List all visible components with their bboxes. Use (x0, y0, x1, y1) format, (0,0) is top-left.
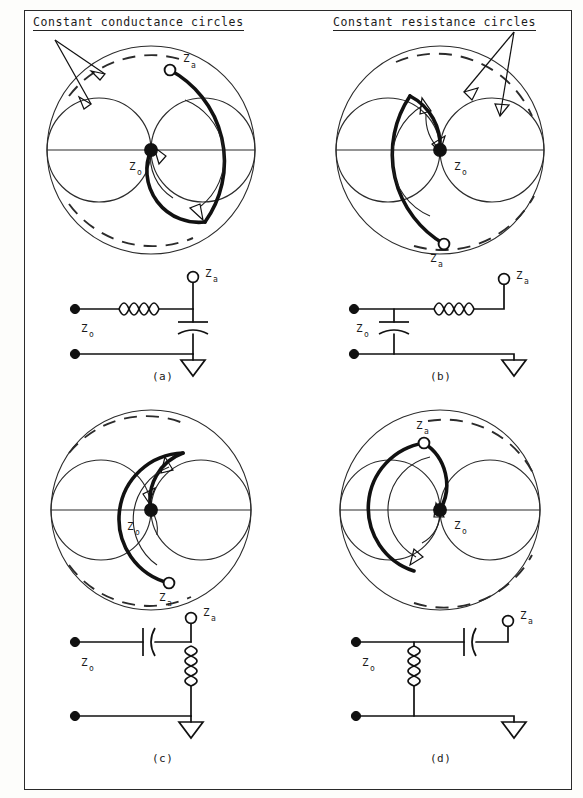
panel-d-output-terminal (503, 616, 514, 627)
panel-b-za-circuit-label-sub: a (524, 277, 529, 286)
panel-c-za-circuit-label: Z (203, 606, 210, 619)
panel-d-za-marker (419, 438, 430, 449)
panel-c-zo-marker (145, 504, 157, 516)
panel-d-zo-label-sub: o (462, 527, 467, 536)
panel-d-za-label-sub: a (424, 427, 429, 436)
panel-d-ground-symbol (502, 722, 526, 738)
panel-a-za-circuit-label-sub: a (213, 275, 218, 284)
panel-c-za-label-sub: a (167, 599, 172, 608)
panel-a-caption: (a) (152, 370, 173, 383)
panel-c-zo-circuit-label-sub: o (89, 664, 94, 673)
panel-a-shunt-capacitor (178, 322, 208, 334)
panel-c-circuit: Z a Z o (33, 612, 283, 742)
panel-a-smith-chart: Z a Z o (33, 30, 283, 270)
panel-b-smith-chart: Z a Z o (318, 30, 568, 270)
panel-c-zo-label-sub: o (135, 528, 140, 537)
panel-b-zo-circuit-label: Z (356, 322, 363, 335)
panel-b-zo-label-sub: o (462, 168, 467, 177)
panel-c-zo-circuit-label: Z (81, 656, 88, 669)
panel-d-za-label: Z (416, 419, 423, 432)
panel-c-output-terminal (186, 613, 197, 624)
panel-b-circuit: Z a Z o (318, 268, 568, 376)
panel-c-zo-label: Z (127, 520, 134, 533)
panel-b-series-inductor (434, 303, 474, 315)
panel-a-zo-circuit-label: Z (81, 322, 88, 335)
panel-d-zo-circuit-label: Z (362, 656, 369, 669)
panel-a-series-inductor (119, 303, 159, 315)
panel-c-za-marker (164, 578, 175, 589)
panel-b-za-marker (439, 239, 450, 250)
panel-a-zo-label: Z (129, 160, 136, 173)
panel-d-shunt-inductor (408, 646, 420, 686)
panel-a-zo-marker (145, 144, 157, 156)
panel-b-output-terminal (499, 274, 510, 285)
figure-page: Constant conductance circles Constant re… (0, 0, 583, 798)
panel-c-shunt-inductor (185, 646, 197, 686)
panel-c-smith-chart: Z a Z o (33, 405, 283, 620)
panel-d-zo-circuit-label-sub: o (370, 664, 375, 673)
panel-d-series-capacitor (464, 628, 476, 656)
panel-c-za-label: Z (159, 591, 166, 604)
panel-d-zo-label: Z (454, 519, 461, 532)
panel-a-za-circuit-label: Z (205, 267, 212, 280)
panel-c-ground-symbol (179, 722, 203, 738)
header-constant-conductance: Constant conductance circles (33, 16, 244, 31)
panel-a-zo-circuit-label-sub: o (89, 330, 94, 339)
panel-b-shunt-capacitor (379, 322, 409, 334)
panel-b-zo-circuit-label-sub: o (364, 330, 369, 339)
header-constant-resistance: Constant resistance circles (333, 16, 536, 31)
panel-a-za-marker (165, 65, 176, 76)
figure-frame-footer (24, 755, 572, 790)
panel-a-zo-label-sub: o (137, 168, 142, 177)
panel-b-ground-symbol (502, 360, 526, 376)
panel-a-circuit: Z a Z o (33, 268, 283, 376)
panel-b-zo-label: Z (454, 160, 461, 173)
panel-a-za-label: Z (183, 52, 190, 65)
panel-b-zo-marker (434, 144, 446, 156)
panel-d-smith-chart: Z a Z o (318, 405, 568, 620)
panel-c-za-circuit-label-sub: a (211, 614, 216, 623)
panel-b-annotation-arrows (464, 32, 514, 116)
panel-b-za-label: Z (430, 252, 437, 265)
panel-a-ground-symbol (181, 360, 205, 376)
panel-b-caption: (b) (430, 370, 451, 383)
panel-a-za-label-sub: a (191, 61, 196, 70)
panel-c-caption: (c) (152, 752, 173, 765)
panel-d-circuit: Z a Z o (318, 612, 568, 742)
panel-a-output-terminal (188, 272, 199, 283)
panel-d-zo-marker (434, 504, 446, 516)
panel-c-series-capacitor (143, 628, 155, 656)
panel-d-caption: (d) (430, 752, 451, 765)
panel-b-za-circuit-label: Z (516, 269, 523, 282)
panel-d-za-circuit-label-sub: a (528, 617, 533, 626)
panel-d-za-circuit-label: Z (520, 609, 527, 622)
